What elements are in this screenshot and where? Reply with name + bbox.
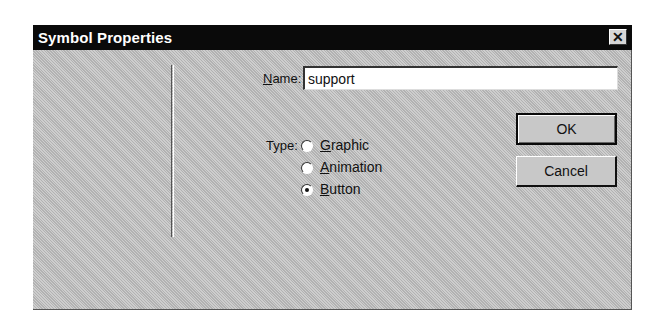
title-bar[interactable]: Symbol Properties ✕ xyxy=(33,25,632,50)
graphic-radio[interactable] xyxy=(301,140,313,152)
close-button[interactable]: ✕ xyxy=(609,29,627,45)
type-label: Type: xyxy=(266,138,298,153)
button-radio[interactable] xyxy=(301,184,313,196)
graphic-label[interactable]: Graphic xyxy=(320,137,369,153)
animation-label[interactable]: Animation xyxy=(320,159,382,175)
name-label: Name: xyxy=(263,71,301,86)
ok-button[interactable]: OK xyxy=(516,113,617,145)
animation-radio[interactable] xyxy=(301,162,313,174)
symbol-properties-dialog: Symbol Properties ✕ Name: Type: Graphic … xyxy=(33,25,632,310)
preview-divider xyxy=(171,65,174,237)
dialog-title: Symbol Properties xyxy=(38,29,172,46)
cancel-button[interactable]: Cancel xyxy=(516,156,617,187)
button-label[interactable]: Button xyxy=(320,181,360,197)
close-icon: ✕ xyxy=(612,29,624,45)
name-input[interactable] xyxy=(303,66,618,90)
